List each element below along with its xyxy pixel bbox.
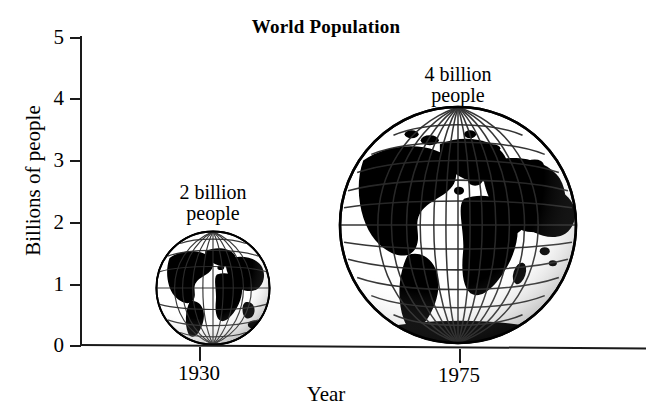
y-axis-tick [70, 222, 81, 224]
globe-1930-annotation: 2 billion people [148, 182, 278, 224]
globe-1975-annotation-line1: 4 billion [393, 64, 523, 85]
x-axis-title: Year [0, 382, 652, 407]
globe-1930 [155, 230, 271, 346]
chart-figure: World Population 5 4 3 2 1 0 Billions of… [0, 0, 652, 418]
y-axis-tick [70, 160, 81, 162]
y-axis-tick-label: 5 [38, 27, 64, 48]
globe-1975-annotation: 4 billion people [393, 64, 523, 106]
globe-1930-annotation-line2: people [148, 203, 278, 224]
globe-1975 [337, 104, 579, 346]
x-axis-line [80, 344, 646, 349]
x-axis-tick [459, 349, 461, 363]
y-axis-tick [70, 98, 81, 100]
y-axis-tick [70, 37, 81, 39]
chart-title: World Population [0, 16, 652, 38]
globe-1975-annotation-line2: people [393, 85, 523, 106]
y-axis-tick [70, 284, 81, 286]
globe-1930-graphic [155, 230, 271, 346]
globe-1975-graphic [337, 104, 579, 346]
y-axis-tick-label: 0 [38, 335, 64, 356]
y-axis-line [80, 36, 82, 346]
x-axis-tick [199, 347, 201, 361]
y-axis-title: Billions of people [21, 56, 46, 306]
globe-1930-annotation-line1: 2 billion [148, 182, 278, 203]
